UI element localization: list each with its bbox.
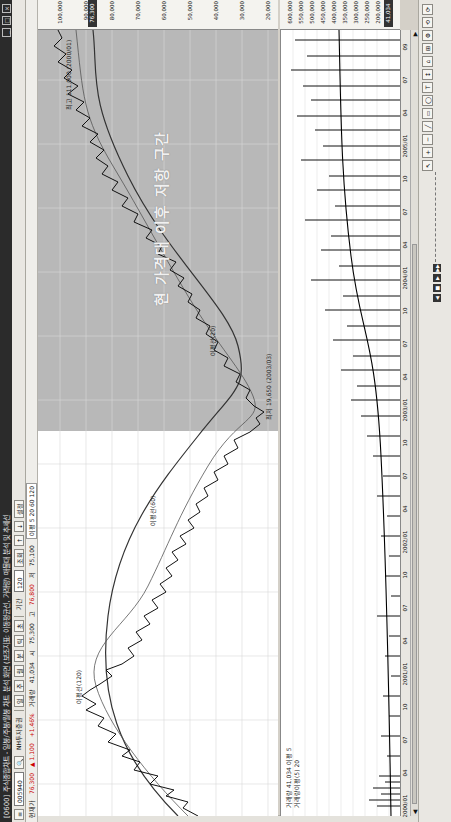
- date-tick: 2005/01: [402, 135, 408, 158]
- search-icon[interactable]: 🔍: [14, 756, 24, 769]
- volume-tag: 41,034: [384, 0, 393, 27]
- low-annotation: 최저 19,650 (2003/03): [264, 354, 273, 420]
- trendline-tool-icon[interactable]: ╱: [422, 121, 433, 132]
- date-tick: 2003/01: [402, 399, 408, 422]
- play-back-button[interactable]: ◀: [433, 294, 441, 302]
- volume-tick: 200,000: [375, 1, 381, 24]
- ma-annotation-120: 이평선(120): [74, 670, 83, 704]
- volume-tick: 500,000: [309, 1, 315, 24]
- date-tick: 04: [402, 374, 408, 381]
- gear-icon[interactable]: ⚙: [422, 30, 433, 41]
- period-week-button[interactable]: 주: [14, 680, 24, 692]
- date-tick: 2004/01: [402, 267, 408, 290]
- date-tick: 04: [402, 638, 408, 645]
- price-chart[interactable]: 현 가격대 이후 저항 구간 최고 111,000 (2000/01) 최저 1…: [38, 30, 278, 816]
- stop-button[interactable]: ■: [433, 284, 441, 292]
- undo-icon[interactable]: ⟲: [422, 17, 433, 28]
- query-button[interactable]: 조회: [14, 549, 24, 567]
- volume-tick: 550,000: [298, 1, 304, 24]
- price-tick: 70,000: [135, 1, 141, 20]
- grid-icon[interactable]: ⊞: [422, 43, 433, 54]
- crosshair-tool-icon[interactable]: +: [422, 147, 433, 158]
- circle-tool-icon[interactable]: ◯: [422, 95, 433, 106]
- menu-icon[interactable]: ≡: [14, 809, 24, 820]
- period-minute-button[interactable]: 분: [14, 650, 24, 662]
- play-button[interactable]: ▶: [433, 274, 441, 282]
- volume-value: 41,034: [28, 662, 35, 683]
- settings-button[interactable]: 설정: [14, 500, 24, 518]
- date-tick: 07: [402, 209, 408, 216]
- date-tick: 04: [402, 110, 408, 117]
- volume-tick: 250,000: [364, 1, 370, 24]
- period-day-button[interactable]: 일: [14, 695, 24, 707]
- drawing-tools: ↖ + ─ ╱ ▭ ◯ T ↕ ⌂ ⊞ ⚙ ⟲ ⟳: [422, 4, 433, 171]
- volume-tick: 400,000: [331, 1, 337, 24]
- rectangle-tool-icon[interactable]: ▭: [422, 108, 433, 119]
- period-tick-button[interactable]: 틱: [14, 635, 24, 647]
- scrollbar-thumb[interactable]: [412, 244, 417, 804]
- high-label: 고: [27, 611, 36, 617]
- volume-tick: 450,000: [320, 1, 326, 24]
- date-tick: 04: [402, 242, 408, 249]
- price-tick: 20,000: [265, 1, 271, 20]
- zoom-slider[interactable]: [435, 172, 440, 262]
- volume-label: 거래량: [27, 689, 36, 707]
- maximize-button[interactable]: □: [2, 16, 11, 25]
- peak-annotation: 최고 111,000 (2000/01): [64, 40, 73, 110]
- close-button[interactable]: ×: [2, 4, 11, 13]
- date-tick: 2000/01: [402, 795, 408, 818]
- current-price-tag: 76,300: [88, 0, 97, 27]
- price-change-pct: +1.46%: [28, 713, 35, 737]
- low-label: 저: [27, 572, 36, 578]
- volume-axis: 600,000 550,000 500,000 450,000 400,000 …: [280, 0, 400, 30]
- date-tick: 04: [402, 770, 408, 777]
- toolbar: ≡ 005940 🔍 NH투자증권 일 주 월 분 틱 초 기간 120 조회 …: [12, 0, 26, 822]
- separator: [14, 616, 24, 617]
- fibonacci-tool-icon[interactable]: ↕: [422, 69, 433, 80]
- period-input[interactable]: 120: [14, 570, 24, 592]
- horizontal-line-tool-icon[interactable]: ─: [422, 134, 433, 145]
- volume-chart-svg: [281, 30, 401, 816]
- period-second-button[interactable]: 초: [14, 620, 24, 632]
- redo-icon[interactable]: ⟳: [422, 4, 433, 15]
- volume-ma-info: 거래량이평(5) 20: [292, 760, 301, 808]
- volume-chart[interactable]: 거래량 41,034 이평 5 거래량이평(5) 20: [280, 30, 401, 816]
- drawing-toolbar: ◀ ■ ▶ ▶▶ ↖ + ─ ╱ ▭ ◯ T ↕ ⌂ ⊞ ⚙ ⟲ ⟳: [418, 0, 451, 822]
- period-label: 기간: [14, 595, 23, 613]
- price-tick: 50,000: [187, 1, 193, 20]
- title-bar: [0600] 주식종합차트 - 일봉/주봉/월봉 차트 분석 화면 (보조지표:…: [0, 0, 12, 822]
- price-tick: 60,000: [161, 1, 167, 20]
- period-month-button[interactable]: 월: [14, 665, 24, 677]
- date-tick: 10: [402, 176, 408, 183]
- window-title: [0600] 주식종합차트 - 일봉/주봉/월봉 차트 분석 화면 (보조지표:…: [1, 37, 11, 822]
- scroll-down-button[interactable]: ↓: [14, 521, 24, 532]
- minimize-button[interactable]: _: [2, 28, 11, 37]
- home-icon[interactable]: ⌂: [422, 56, 433, 67]
- open-value: 75,300: [28, 623, 35, 644]
- price-info-bar: 현재가 76,300 ▲ 1,100 +1.46% 거래량 41,034 시 7…: [26, 0, 38, 822]
- price-axis: 100,000 90,000 76,300 80,000 70,000 60,0…: [38, 0, 278, 30]
- ma-annotation-60: 이평선(60): [148, 496, 157, 526]
- stock-code-input[interactable]: 005940: [14, 772, 24, 806]
- date-tick: 07: [402, 77, 408, 84]
- date-tick: 07: [402, 341, 408, 348]
- date-tick: 04: [402, 506, 408, 513]
- text-tool-icon[interactable]: T: [422, 82, 433, 93]
- ma-settings-chip[interactable]: 이평 5 20 60 120: [26, 483, 37, 539]
- pointer-tool-icon[interactable]: ↖: [422, 160, 433, 171]
- volume-tick: 600,000: [287, 1, 293, 24]
- date-tick: 07: [402, 737, 408, 744]
- fast-forward-button[interactable]: ▶▶: [433, 264, 441, 272]
- resistance-zone-label: 현 가격대 이후 저항 구간: [150, 131, 171, 306]
- date-tick: 10: [402, 440, 408, 447]
- playback-controls: ◀ ■ ▶ ▶▶: [433, 264, 441, 302]
- stock-name: NH투자증권: [14, 714, 23, 753]
- date-tick: 2002/01: [402, 531, 408, 554]
- date-tick: 10: [402, 572, 408, 579]
- price-tick: 80,000: [109, 1, 115, 20]
- date-tick: 10: [402, 308, 408, 315]
- scroll-up-button[interactable]: ↑: [14, 535, 24, 546]
- open-label: 시: [27, 650, 36, 656]
- current-price: 76,300: [28, 773, 35, 794]
